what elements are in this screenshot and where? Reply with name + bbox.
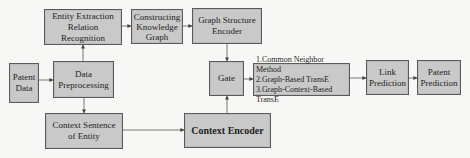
node-label: Context Encoder <box>191 125 264 136</box>
node-data-preprocessing: Data Preprocessing <box>53 61 114 98</box>
node-patent-data: Patent Data <box>9 63 39 103</box>
node-patent-prediction: Patent Prediction <box>417 60 461 95</box>
node-label: Context Sentence of Entity <box>52 120 115 142</box>
node-gate: Gate <box>209 61 244 96</box>
node-label: Constructing Knowledge Graph <box>134 12 181 42</box>
node-link-prediction: Link Prediction <box>366 60 409 95</box>
flowchart-diagram: Patent Data Data Preprocessing Entity Ex… <box>0 0 470 158</box>
node-constructing-knowledge-graph: Constructing Knowledge Graph <box>131 9 183 44</box>
node-label: Gate <box>218 73 235 84</box>
node-entity-extraction: Entity Extraction Relation Recognition <box>44 9 122 45</box>
node-label: Patent Prediction <box>421 67 458 89</box>
node-label: Link Prediction <box>369 67 406 89</box>
node-label: Graph Structure Encoder <box>198 15 256 37</box>
node-context-sentence: Context Sentence of Entity <box>45 113 123 149</box>
node-label: Patent Data <box>13 72 36 94</box>
node-label: Entity Extraction Relation Recognition <box>45 11 121 44</box>
node-label: Data Preprocessing <box>58 69 109 91</box>
node-graph-structure-encoder: Graph Structure Encoder <box>192 8 262 44</box>
node-context-encoder: Context Encoder <box>184 113 271 148</box>
node-label: 1.Common Neighbor Method 2.Graph-Based T… <box>256 55 349 105</box>
node-methods: 1.Common Neighbor Method 2.Graph-Based T… <box>253 63 350 96</box>
